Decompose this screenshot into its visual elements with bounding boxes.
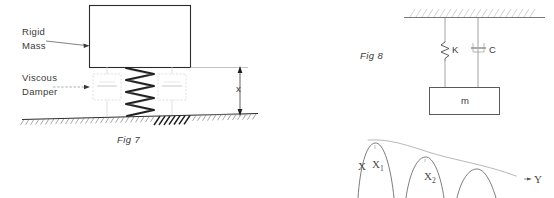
viscous-damper-label-line2: Damper [22, 86, 58, 97]
rigid-mass-leader-arrow [84, 43, 90, 48]
fig8-caption: Fig 8 [360, 50, 383, 61]
rigid-mass-label-line2: Mass [22, 40, 46, 51]
y-axis-arrow-head [527, 177, 532, 180]
damper-c-label: C [489, 44, 496, 55]
figure-sheet: Rigid Mass Viscous Damper x Fig 7 Fig 8 … [0, 0, 554, 198]
decay-peak-2-base: X [424, 170, 432, 182]
spring-k-label: K [452, 44, 458, 55]
decay-axis-x-label: X [358, 160, 366, 172]
viscous-damper-label-line1: Viscous [22, 72, 57, 83]
decay-peak-2-label: X2 [424, 170, 436, 185]
decay-peak-2-sub: 2 [432, 176, 436, 185]
viscous-damper-right [158, 67, 186, 117]
spring-k-symbol [441, 42, 449, 60]
rigid-mass-label-line1: Rigid [22, 26, 45, 37]
displacement-x-label: x [236, 83, 241, 94]
decay-peak-1-label: X1 [372, 158, 384, 173]
decay-peak-1-base: X [372, 158, 380, 170]
viscous-damper-left [93, 67, 121, 116]
fig7-caption: Fig 7 [117, 134, 140, 145]
ceiling-hatch [410, 9, 535, 17]
rigid-mass-leader-line [46, 41, 86, 46]
ground-line [22, 114, 258, 120]
decay-peak-1-sub: 1 [380, 164, 384, 173]
diagram-canvas [0, 0, 554, 198]
coil-spring [126, 68, 154, 116]
fig7-group [21, 6, 259, 126]
fig8-group [404, 9, 545, 115]
mass-m-label: m [461, 95, 469, 106]
dimension-arrow-up [238, 66, 243, 73]
decay-plot-group [358, 140, 532, 198]
rigid-mass-box [90, 6, 191, 68]
decay-axis-y-label: Y [534, 173, 542, 185]
viscous-damper-leader-arrow [84, 85, 90, 89]
